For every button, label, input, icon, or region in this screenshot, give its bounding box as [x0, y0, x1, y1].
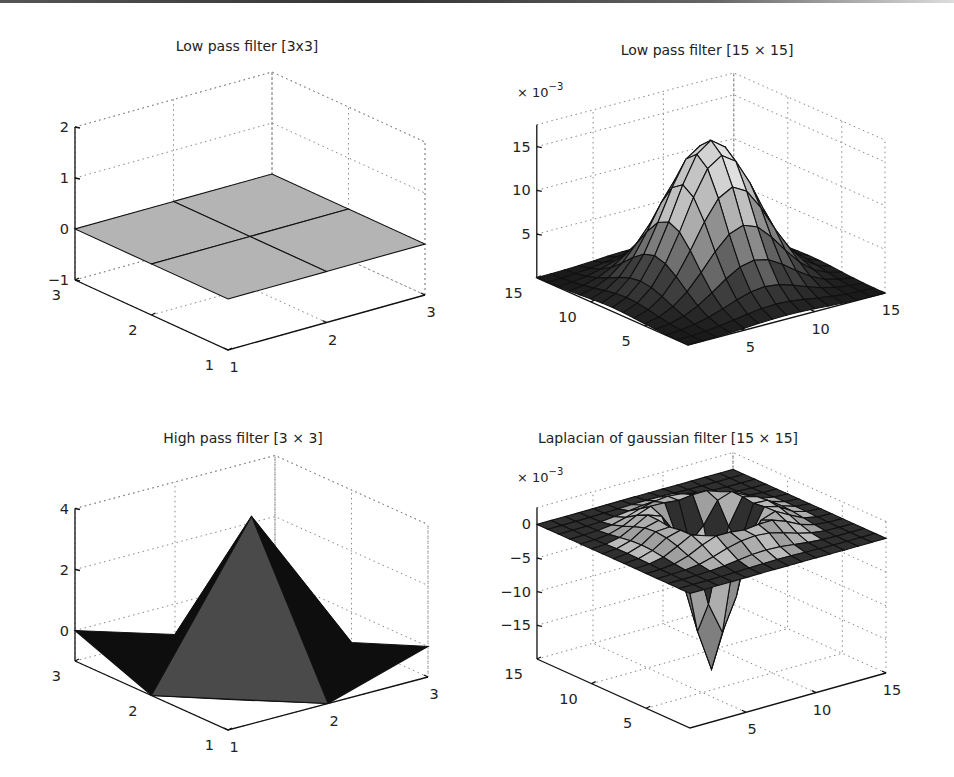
plot-high-pass-3x3: High pass filter [3 × 3] 024123123	[52, 430, 439, 755]
plot-title: Low pass filter [15 × 15]	[621, 42, 794, 58]
z-axis-multiplier: × 10−3	[517, 81, 563, 100]
plot-low-pass-15x15: Low pass filter [15 × 15] 51015510155101…	[504, 42, 900, 355]
plot-title: High pass filter [3 × 3]	[163, 430, 323, 446]
y-tick-label: 5	[623, 715, 632, 731]
z-tick-label: −15	[500, 617, 531, 633]
x-tick-label: 1	[229, 739, 238, 755]
x-tick-label: 15	[883, 682, 901, 698]
y-tick-label: 2	[128, 322, 137, 338]
x-tick-label: 3	[426, 304, 435, 320]
y-tick-label: 15	[505, 666, 523, 682]
z-tick-label: 15	[512, 139, 530, 155]
x-tick-label: 2	[328, 332, 337, 348]
x-tick-label: 1	[229, 359, 238, 375]
z-tick-label: 0	[60, 221, 69, 237]
x-tick-label: 10	[811, 321, 829, 337]
y-tick-label: 1	[205, 737, 214, 753]
x-tick-label: 5	[747, 721, 756, 737]
z-tick-label: 2	[60, 119, 69, 135]
y-tick-label: 3	[52, 287, 61, 303]
surface	[75, 174, 425, 299]
z-tick-label: −5	[510, 550, 531, 566]
x-tick-label: 15	[882, 302, 900, 318]
z-tick-label: 0	[60, 623, 69, 639]
y-tick-label: 10	[559, 691, 577, 707]
x-tick-label: 3	[429, 686, 438, 702]
x-tick-label: 10	[813, 702, 831, 718]
z-tick-label: 4	[60, 501, 69, 517]
z-axis-multiplier: × 10−3	[517, 466, 563, 485]
z-tick-label: 2	[60, 562, 69, 578]
figure-2x2-surface-plots: Low pass filter [3x3] −1012123123 Low pa…	[0, 0, 954, 777]
plot-low-pass-3x3: Low pass filter [3x3] −1012123123	[48, 38, 436, 375]
z-tick-label: 1	[60, 170, 69, 186]
surface	[75, 517, 428, 704]
surface	[537, 469, 886, 669]
y-tick-label: 3	[52, 668, 61, 684]
z-tick-label: 10	[512, 182, 530, 198]
surface	[537, 140, 885, 345]
y-tick-label: 1	[205, 357, 214, 373]
plot-title: Low pass filter [3x3]	[176, 38, 319, 54]
z-tick-label: 0	[522, 516, 531, 532]
y-tick-label: 5	[622, 333, 631, 349]
z-tick-label: 5	[522, 226, 531, 242]
x-tick-label: 2	[329, 713, 338, 729]
z-tick-label: −1	[48, 272, 69, 288]
x-tick-label: 5	[746, 339, 755, 355]
y-tick-label: 15	[504, 285, 522, 301]
plot-title: Laplacian of gaussian filter [15 × 15]	[538, 430, 798, 446]
y-tick-label: 2	[128, 703, 137, 719]
plot-laplacian-of-gaussian-15x15: Laplacian of gaussian filter [15 × 15] 0…	[500, 430, 901, 737]
z-tick-label: −10	[500, 584, 531, 600]
y-tick-label: 10	[558, 309, 576, 325]
